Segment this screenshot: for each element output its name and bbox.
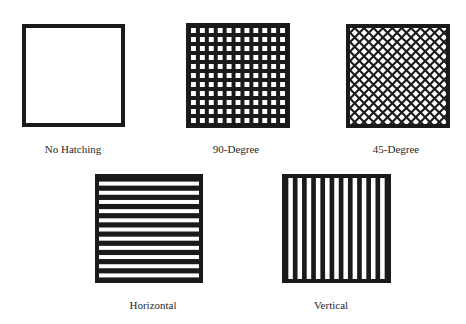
pattern-graphic [186, 23, 290, 128]
label-90-degree: 90-Degree [213, 143, 259, 155]
swatch-horizontal [95, 174, 203, 283]
label-no-hatching: No Hatching [45, 143, 102, 155]
pattern-graphic [95, 174, 203, 283]
pattern-graphic [346, 24, 450, 128]
pattern-graphic [282, 174, 391, 283]
swatch-vertical [282, 174, 391, 283]
swatch-45-degree [346, 24, 450, 128]
swatch-90-degree [186, 23, 290, 128]
label-45-degree: 45-Degree [373, 143, 419, 155]
label-horizontal: Horizontal [129, 299, 176, 311]
pattern-graphic [22, 24, 125, 127]
label-vertical: Vertical [314, 299, 348, 311]
swatch-no-hatching [22, 24, 125, 127]
